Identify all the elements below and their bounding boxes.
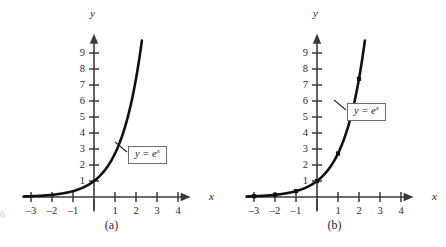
y-axis-tick-label: 5 xyxy=(296,112,308,123)
label-leader-line xyxy=(334,100,346,110)
panel-b-function-label: y = ex xyxy=(347,103,386,121)
x-axis-tick-label: –3 xyxy=(23,206,39,217)
x-axis-arrowhead xyxy=(404,193,414,201)
panel-a-function-exponent: x xyxy=(157,147,160,155)
x-axis-tick-label: –1 xyxy=(65,206,81,217)
data-point-marker xyxy=(252,194,256,198)
x-axis-tick-label: 3 xyxy=(149,206,165,217)
y-axis-tick-label: 8 xyxy=(73,64,85,75)
y-axis-tick-label: 9 xyxy=(296,48,308,59)
x-axis-tick-label: –2 xyxy=(44,206,60,217)
y-axis-tick-label: 4 xyxy=(296,128,308,139)
x-axis-arrowhead xyxy=(181,193,191,201)
y-axis-tick-label: 7 xyxy=(296,80,308,91)
x-axis-tick-label: 4 xyxy=(393,206,409,217)
panel-b-y-axis-label: y xyxy=(313,8,318,19)
y-axis-tick-label: 3 xyxy=(73,144,85,155)
x-axis-tick-label: –2 xyxy=(267,206,283,217)
x-axis-tick-label: 2 xyxy=(351,206,367,217)
y-axis-tick-label: 6 xyxy=(73,96,85,107)
y-axis-tick-label: 6 xyxy=(296,96,308,107)
panel-b-function-text: y = e xyxy=(354,105,376,116)
x-axis-tick-label: –3 xyxy=(246,206,262,217)
x-axis-tick-label: 4 xyxy=(170,206,186,217)
y-axis-tick-label: 8 xyxy=(296,64,308,75)
panel-a-plot xyxy=(0,0,223,218)
y-axis-arrowhead xyxy=(313,34,321,44)
data-point-marker xyxy=(273,193,277,197)
y-axis-tick-label: 5 xyxy=(73,112,85,123)
y-axis-tick-label: 1 xyxy=(296,176,308,187)
y-axis-tick-label: 9 xyxy=(73,48,85,59)
data-point-marker xyxy=(336,151,340,155)
panel-a-function-text: y = e xyxy=(135,148,157,159)
y-axis-tick-label: 2 xyxy=(73,160,85,171)
panel-a-y-axis-label: y xyxy=(90,8,95,19)
x-axis-tick-label: 3 xyxy=(372,206,388,217)
x-axis-tick-label: –1 xyxy=(288,206,304,217)
data-point-marker xyxy=(294,189,298,193)
x-axis-tick-label: 2 xyxy=(128,206,144,217)
x-axis-tick-label: 1 xyxy=(330,206,346,217)
panel-b-caption: (b) xyxy=(223,219,446,231)
data-point-marker xyxy=(357,77,361,81)
exponential-function-figure: 6 y x y = ex (a) –3–2–11234123456789 y x… xyxy=(0,0,446,247)
data-point-marker xyxy=(315,179,319,183)
y-axis-arrowhead xyxy=(90,34,98,44)
panel-b-x-axis-label: x xyxy=(432,191,437,202)
y-axis-tick-label: 4 xyxy=(73,128,85,139)
y-axis-tick-label: 1 xyxy=(73,176,85,187)
panel-b-function-exponent: x xyxy=(376,104,379,112)
panel-a-caption: (a) xyxy=(0,219,223,231)
panel-b: y x y = ex (b) –3–2–11234123456789 xyxy=(223,0,446,247)
y-axis-tick-label: 2 xyxy=(296,160,308,171)
y-axis-tick-label: 3 xyxy=(296,144,308,155)
x-axis-tick-label: 1 xyxy=(107,206,123,217)
y-axis-tick-label: 7 xyxy=(73,80,85,91)
panel-a-x-axis-label: x xyxy=(209,191,214,202)
panel-a-function-label: y = ex xyxy=(128,146,167,164)
panel-b-plot xyxy=(223,0,446,218)
panel-a: y x y = ex (a) –3–2–11234123456789 xyxy=(0,0,223,247)
